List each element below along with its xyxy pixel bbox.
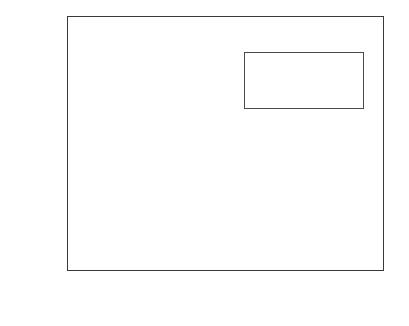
legend (244, 52, 364, 109)
figure (0, 0, 409, 326)
x-axis-tick-labels (0, 275, 409, 291)
